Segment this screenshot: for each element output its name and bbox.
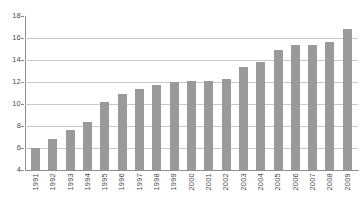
bar — [274, 50, 283, 170]
y-axis-tick-mark — [21, 170, 24, 171]
x-label-slot: 2005 — [269, 173, 286, 206]
x-axis-tick-label: 2001 — [205, 173, 213, 191]
x-axis-tick-label: 1991 — [32, 173, 40, 191]
bar — [343, 29, 352, 170]
bar-slot — [62, 16, 79, 170]
y-axis-tick-label: 16 — [12, 34, 21, 42]
y-axis-tick-label: 18 — [12, 12, 21, 20]
x-axis-tick-label: 2000 — [188, 173, 196, 191]
x-axis-tick-label: 2004 — [257, 173, 265, 191]
y-axis-tick-label: 10 — [12, 100, 21, 108]
x-axis-line — [25, 170, 359, 171]
bar — [66, 130, 75, 170]
bar-slot — [304, 16, 321, 170]
bar — [291, 45, 300, 170]
bar-slot — [200, 16, 217, 170]
bar — [170, 82, 179, 170]
bar-slot — [183, 16, 200, 170]
x-axis-tick-label: 1998 — [153, 173, 161, 191]
bar — [100, 102, 109, 170]
x-axis-tick-label: 2003 — [240, 173, 248, 191]
x-axis-tick-label: 1994 — [84, 173, 92, 191]
x-label-slot: 2007 — [304, 173, 321, 206]
bar — [152, 85, 161, 170]
x-axis-tick-label: 2002 — [222, 173, 230, 191]
x-axis-tick-label: 2007 — [309, 173, 317, 191]
bar — [48, 139, 57, 170]
bar — [31, 148, 40, 170]
bar-slot — [131, 16, 148, 170]
x-label-slot: 1996 — [114, 173, 131, 206]
bar-chart: 4681012141618 19911992199319941995199619… — [0, 0, 361, 206]
y-axis-tick-label: 14 — [12, 56, 21, 64]
bar-slot — [27, 16, 44, 170]
bar-slot — [287, 16, 304, 170]
bar — [118, 94, 127, 170]
y-axis-tick-mark — [21, 126, 24, 127]
x-label-slot: 1992 — [44, 173, 61, 206]
bar-slot — [114, 16, 131, 170]
x-label-slot: 1999 — [166, 173, 183, 206]
x-label-slot: 1995 — [96, 173, 113, 206]
y-axis-tick-label: 12 — [12, 78, 21, 86]
bar-slot — [166, 16, 183, 170]
x-axis-tick-label: 1997 — [136, 173, 144, 191]
x-label-slot: 2006 — [287, 173, 304, 206]
y-axis-labels: 4681012141618 — [0, 16, 21, 171]
x-axis-labels: 1991199219931994199519961997199819992000… — [25, 173, 358, 206]
bar — [256, 62, 265, 170]
x-label-slot: 2009 — [339, 173, 356, 206]
bar-slot — [217, 16, 234, 170]
x-label-slot: 2000 — [183, 173, 200, 206]
bar-slot — [252, 16, 269, 170]
x-axis-tick-label: 1996 — [118, 173, 126, 191]
x-label-slot: 2001 — [200, 173, 217, 206]
bar-slot — [321, 16, 338, 170]
x-axis-tick-label: 2008 — [326, 173, 334, 191]
bar-slot — [339, 16, 356, 170]
bar-slot — [148, 16, 165, 170]
y-axis-tick-mark — [21, 60, 24, 61]
y-axis-tick-mark — [21, 38, 24, 39]
bar — [204, 81, 213, 170]
bar-slot — [79, 16, 96, 170]
bar-slot — [96, 16, 113, 170]
x-label-slot: 2003 — [235, 173, 252, 206]
x-axis-tick-label: 2005 — [274, 173, 282, 191]
x-label-slot: 2004 — [252, 173, 269, 206]
x-axis-tick-label: 1993 — [67, 173, 75, 191]
x-axis-tick-label: 1995 — [101, 173, 109, 191]
bar — [325, 42, 334, 170]
bar — [187, 81, 196, 170]
y-axis-tick-mark — [21, 82, 24, 83]
x-label-slot: 1991 — [27, 173, 44, 206]
bar — [222, 79, 231, 170]
bar-slot — [235, 16, 252, 170]
x-axis-tick-label: 2009 — [344, 173, 352, 191]
x-label-slot: 1998 — [148, 173, 165, 206]
x-axis-tick-label: 2006 — [292, 173, 300, 191]
y-axis-tick-mark — [21, 148, 24, 149]
x-label-slot: 2002 — [217, 173, 234, 206]
x-label-slot: 2008 — [321, 173, 338, 206]
x-axis-tick-label: 1992 — [49, 173, 57, 191]
x-label-slot: 1994 — [79, 173, 96, 206]
bar-slot — [269, 16, 286, 170]
bar-series — [25, 16, 358, 170]
bar — [83, 122, 92, 170]
bar-slot — [44, 16, 61, 170]
x-label-slot: 1997 — [131, 173, 148, 206]
y-axis-tick-mark — [21, 104, 24, 105]
bar — [135, 89, 144, 170]
bar — [308, 45, 317, 170]
x-axis-tick-label: 1999 — [170, 173, 178, 191]
bar — [239, 67, 248, 170]
plot-area — [25, 16, 358, 170]
y-axis-tick-mark — [21, 16, 24, 17]
x-label-slot: 1993 — [62, 173, 79, 206]
